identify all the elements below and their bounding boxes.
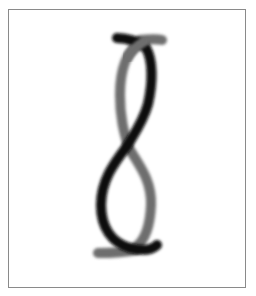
- twisted-strands-drawing: [0, 0, 256, 296]
